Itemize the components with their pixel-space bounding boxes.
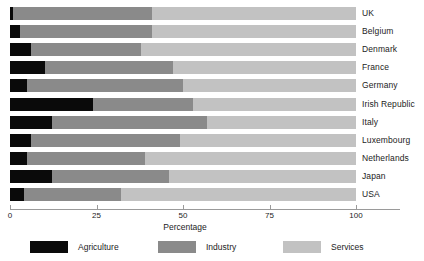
legend-label: Agriculture bbox=[78, 242, 119, 252]
x-axis-tick-label: 25 bbox=[92, 211, 101, 220]
bar-segment-services bbox=[207, 116, 356, 129]
bar-track bbox=[10, 98, 356, 111]
bar-track bbox=[10, 79, 356, 92]
legend-swatch-agriculture bbox=[30, 241, 68, 253]
bar-segment-agriculture bbox=[10, 79, 27, 92]
category-label: Luxembourg bbox=[362, 135, 410, 146]
bar-segment-industry bbox=[52, 116, 208, 129]
x-axis-tick-label: 0 bbox=[8, 211, 12, 220]
bar-track bbox=[10, 25, 356, 38]
bar-segment-services bbox=[169, 170, 356, 183]
cropped-chart-title bbox=[0, 0, 424, 3]
x-axis-tick bbox=[10, 205, 11, 209]
bar-track bbox=[10, 43, 356, 56]
bar-track bbox=[10, 170, 356, 183]
bar-segment-agriculture bbox=[10, 25, 20, 38]
x-axis-title: Percentage bbox=[0, 222, 370, 232]
chart-legend: AgricultureIndustryServices bbox=[10, 240, 414, 254]
bar-segment-services bbox=[183, 79, 356, 92]
x-axis-tick bbox=[270, 205, 271, 209]
bar-segment-agriculture bbox=[10, 61, 45, 74]
bar-segment-industry bbox=[45, 61, 173, 74]
bar-row: Germany bbox=[0, 79, 424, 92]
category-label: Irish Republic bbox=[362, 99, 415, 110]
bar-row: UK bbox=[0, 7, 424, 20]
bar-row: Italy bbox=[0, 116, 424, 129]
bar-segment-industry bbox=[24, 188, 121, 201]
bar-segment-industry bbox=[93, 98, 193, 111]
bar-segment-services bbox=[152, 7, 356, 20]
category-label: Italy bbox=[362, 117, 378, 128]
bar-segment-agriculture bbox=[10, 188, 24, 201]
category-label: Belgium bbox=[362, 26, 393, 37]
bar-segment-agriculture bbox=[10, 43, 31, 56]
bar-segment-agriculture bbox=[10, 134, 31, 147]
bar-segment-industry bbox=[31, 134, 180, 147]
bar-segment-services bbox=[121, 188, 356, 201]
legend-item-industry[interactable]: Industry bbox=[158, 240, 236, 254]
legend-item-services[interactable]: Services bbox=[283, 240, 364, 254]
bar-segment-industry bbox=[31, 43, 142, 56]
legend-item-agriculture[interactable]: Agriculture bbox=[30, 240, 119, 254]
bar-track bbox=[10, 152, 356, 165]
bar-segment-services bbox=[173, 61, 356, 74]
bar-segment-agriculture bbox=[10, 152, 27, 165]
bar-row: Netherlands bbox=[0, 152, 424, 165]
x-axis-tick bbox=[356, 205, 357, 209]
bar-segment-agriculture bbox=[10, 170, 52, 183]
bar-track bbox=[10, 188, 356, 201]
bar-row: Denmark bbox=[0, 43, 424, 56]
x-axis-line bbox=[10, 209, 400, 210]
bar-track bbox=[10, 134, 356, 147]
bar-segment-services bbox=[180, 134, 356, 147]
bar-segment-services bbox=[145, 152, 356, 165]
bar-segment-agriculture bbox=[10, 98, 93, 111]
category-label: Denmark bbox=[362, 44, 397, 55]
bar-row: USA bbox=[0, 188, 424, 201]
legend-label: Services bbox=[331, 242, 364, 252]
bar-segment-services bbox=[152, 25, 356, 38]
stacked-bar-chart: UKBelgiumDenmarkFranceGermanyIrish Repub… bbox=[0, 0, 424, 261]
x-axis-tick bbox=[97, 205, 98, 209]
bar-segment-services bbox=[193, 98, 356, 111]
bar-track bbox=[10, 116, 356, 129]
bar-segment-industry bbox=[13, 7, 151, 20]
bar-segment-agriculture bbox=[10, 116, 52, 129]
bar-row: Irish Republic bbox=[0, 98, 424, 111]
bar-segment-industry bbox=[52, 170, 170, 183]
bar-segment-industry bbox=[27, 79, 183, 92]
bar-row: Belgium bbox=[0, 25, 424, 38]
bar-track bbox=[10, 61, 356, 74]
legend-swatch-industry bbox=[158, 241, 196, 253]
category-label: Japan bbox=[362, 171, 386, 182]
bar-segment-services bbox=[141, 43, 356, 56]
bar-segment-industry bbox=[27, 152, 145, 165]
legend-swatch-services bbox=[283, 241, 321, 253]
category-label: UK bbox=[362, 8, 374, 19]
category-label: USA bbox=[362, 189, 380, 200]
bar-track bbox=[10, 7, 356, 20]
plot-area: UKBelgiumDenmarkFranceGermanyIrish Repub… bbox=[0, 4, 424, 208]
x-axis-tick-label: 50 bbox=[179, 211, 188, 220]
category-label: Netherlands bbox=[362, 153, 409, 164]
bar-row: Luxembourg bbox=[0, 134, 424, 147]
x-axis-tick-label: 75 bbox=[265, 211, 274, 220]
x-axis-tick-label: 100 bbox=[349, 211, 362, 220]
category-label: France bbox=[362, 62, 389, 73]
bar-row: Japan bbox=[0, 170, 424, 183]
x-axis-tick bbox=[183, 205, 184, 209]
legend-label: Industry bbox=[206, 242, 236, 252]
bar-segment-industry bbox=[20, 25, 151, 38]
category-label: Germany bbox=[362, 80, 398, 91]
bar-row: France bbox=[0, 61, 424, 74]
